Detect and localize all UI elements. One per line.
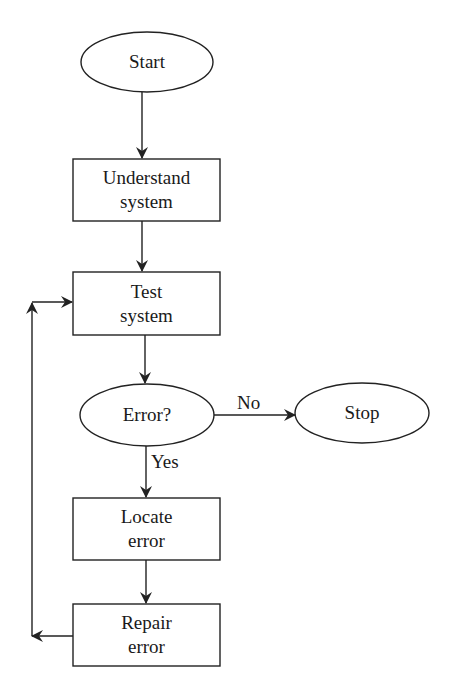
repair-line2: error xyxy=(128,635,165,659)
stop-label: Stop xyxy=(295,383,429,443)
understand-line2: system xyxy=(120,190,173,214)
edge-label-yes: Yes xyxy=(151,452,179,472)
test-line2: system xyxy=(120,304,173,328)
error-text: Error? xyxy=(123,403,172,427)
locate-error-label: Locate error xyxy=(73,498,220,560)
repair-line1: Repair xyxy=(121,611,172,635)
start-text: Start xyxy=(129,50,165,74)
understand-system-label: Understand system xyxy=(73,159,220,221)
understand-line1: Understand xyxy=(103,166,191,190)
stop-text: Stop xyxy=(345,401,380,425)
test-line1: Test xyxy=(131,280,162,304)
locate-line1: Locate xyxy=(121,505,173,529)
start-label: Start xyxy=(81,32,213,92)
repair-error-label: Repair error xyxy=(73,604,220,666)
flowchart-canvas xyxy=(0,0,452,700)
test-system-label: Test system xyxy=(73,272,220,335)
error-decision-label: Error? xyxy=(80,384,214,446)
locate-line2: error xyxy=(128,529,165,553)
edge-label-no: No xyxy=(237,393,260,413)
